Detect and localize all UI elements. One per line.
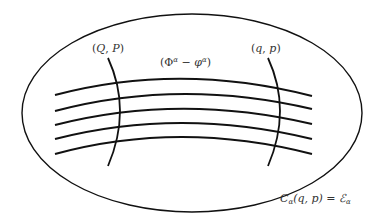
gauge-orbits bbox=[55, 79, 312, 154]
symbol-phi: φ bbox=[194, 56, 202, 69]
symbol-Phi: Φ bbox=[164, 56, 173, 69]
label-gauge-difference: (Φα − φα) bbox=[160, 57, 211, 68]
symbol-E: ℰ bbox=[339, 192, 346, 205]
phase-space-region bbox=[22, 14, 362, 212]
diagram-canvas bbox=[0, 0, 377, 222]
label-QP: (Q, P) bbox=[92, 43, 124, 54]
paren-close: ) bbox=[120, 42, 124, 55]
subscript-alpha: α bbox=[346, 198, 351, 206]
paren-close: ) bbox=[276, 42, 280, 55]
label-qp: (q, p) bbox=[251, 43, 281, 54]
qp-section-curve bbox=[268, 58, 280, 166]
symbol-P: P bbox=[112, 42, 119, 55]
arguments-qp: (q, p) bbox=[293, 192, 323, 205]
equals-sign: = bbox=[323, 192, 339, 205]
label-constraint: Cα(q, p) = ℰα bbox=[280, 193, 351, 206]
paren-close: ) bbox=[207, 56, 211, 69]
symbol-Q: Q bbox=[96, 42, 105, 55]
minus-sign: − bbox=[178, 56, 194, 69]
